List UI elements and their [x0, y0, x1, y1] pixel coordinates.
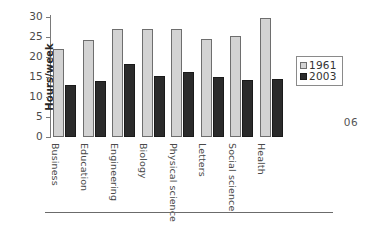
x-axis-category-label: Biology — [138, 143, 149, 179]
y-tick-label: 30 — [29, 10, 43, 22]
bar-1961[interactable] — [142, 29, 153, 137]
bar-1961[interactable] — [83, 40, 94, 137]
bar-group: Health — [257, 17, 287, 137]
x-axis-category-label: Business — [50, 143, 61, 186]
bar-2003[interactable] — [242, 80, 253, 137]
y-tick-label: 0 — [36, 130, 43, 142]
bar-group: Biology — [139, 17, 169, 137]
bar-1961[interactable] — [260, 18, 271, 137]
x-axis-category-label: Engineering — [109, 143, 120, 201]
y-tick-label: 20 — [29, 50, 43, 62]
x-axis-category-label: Education — [79, 143, 90, 191]
x-axis-category-label: Physical science — [168, 143, 179, 222]
y-tick-label: 10 — [29, 90, 43, 102]
bar-groups: BusinessEducationEngineeringBiologyPhysi… — [50, 17, 286, 137]
bar-1961[interactable] — [112, 29, 123, 137]
bar-2003[interactable] — [95, 81, 106, 137]
bar-2003[interactable] — [154, 76, 165, 137]
bar-1961[interactable] — [171, 29, 182, 137]
page-number: 06 — [344, 116, 358, 128]
y-tick-label: 15 — [29, 70, 43, 82]
bar-1961[interactable] — [53, 49, 64, 137]
bar-2003[interactable] — [183, 72, 194, 137]
y-tick-label: 5 — [36, 110, 43, 122]
chart-legend: 1961 2003 — [296, 56, 343, 86]
legend-item[interactable]: 2003 — [300, 71, 337, 82]
y-tick-mark — [46, 137, 50, 138]
x-axis-category-label: Social science — [227, 143, 238, 211]
y-tick-label: 25 — [29, 30, 43, 42]
x-axis-category-label: Letters — [197, 143, 208, 177]
bar-group: Physical science — [168, 17, 198, 137]
footer-rule — [45, 212, 333, 213]
x-axis-category-label: Health — [256, 143, 267, 175]
bar-2003[interactable] — [65, 85, 76, 137]
bar-1961[interactable] — [201, 39, 212, 137]
legend-swatch-2003 — [300, 73, 307, 80]
bar-group: Social science — [227, 17, 257, 137]
bar-group: Business — [50, 17, 80, 137]
bar-group: Letters — [198, 17, 228, 137]
bar-group: Education — [80, 17, 110, 137]
bar-2003[interactable] — [124, 64, 135, 137]
bar-2003[interactable] — [213, 77, 224, 137]
legend-label-2003: 2003 — [309, 71, 337, 82]
figure-container: Hours/week 302520151050 BusinessEducatio… — [0, 0, 368, 227]
legend-swatch-1961 — [300, 62, 307, 69]
bar-group: Engineering — [109, 17, 139, 137]
plot-area: Hours/week 302520151050 BusinessEducatio… — [50, 17, 286, 137]
bar-1961[interactable] — [230, 36, 241, 137]
bar-2003[interactable] — [272, 79, 283, 137]
